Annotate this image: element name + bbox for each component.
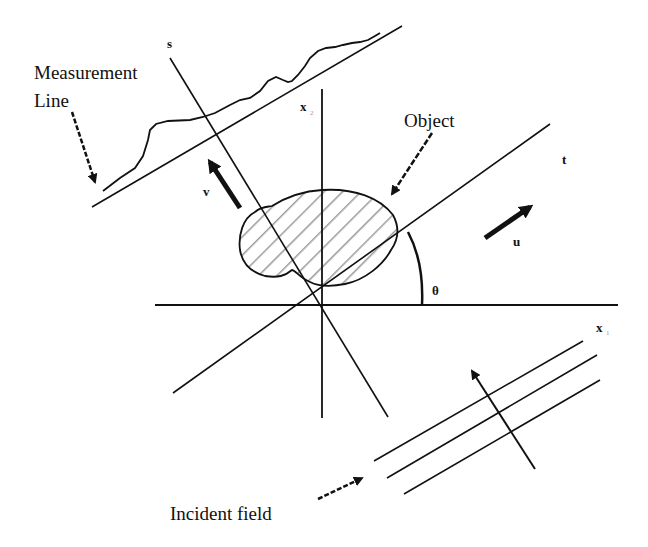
v-vector-arrow [210, 162, 240, 208]
incident-direction-arrow [472, 371, 535, 469]
object-shape [240, 190, 398, 286]
t-axis [173, 124, 550, 393]
u-vector-arrow [485, 207, 530, 238]
x1-axis-label: x [596, 320, 603, 335]
diagram-canvas: Measurement Line Object Incident field s… [0, 0, 648, 547]
x2-axis-label: x [300, 99, 307, 114]
object-pointer [392, 133, 432, 194]
angle-arc [408, 232, 422, 305]
measurement-line-label-1: Measurement [34, 62, 138, 83]
incident-field-pointer [318, 478, 362, 499]
t-axis-label: t [562, 152, 567, 167]
incident-wavefront-3 [404, 380, 600, 494]
measurement-line [92, 26, 402, 207]
angle-theta-label: θ [432, 283, 439, 298]
measurement-line-pointer [72, 112, 95, 182]
s-axis-label: s [167, 36, 172, 51]
measurement-line-label-2: Line [34, 90, 69, 111]
x1-axis-subscript: 1 [606, 329, 610, 337]
object-label: Object [404, 110, 455, 131]
x2-axis-subscript: 2 [310, 109, 314, 117]
u-vector-label: u [513, 234, 520, 249]
incident-wavefront-2 [387, 355, 597, 478]
v-vector-label: v [203, 184, 210, 199]
measured-field-curve [103, 33, 380, 191]
incident-field-label: Incident field [170, 503, 272, 524]
incident-wavefront-1 [374, 341, 583, 461]
